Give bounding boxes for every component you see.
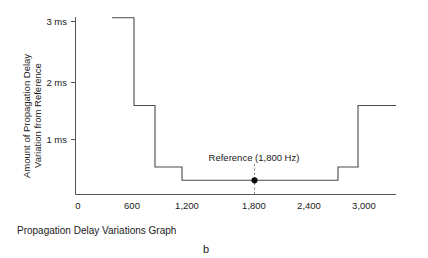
x-tick-label-3000: 3,000 bbox=[352, 200, 376, 211]
y-tick-label-1ms: 1 ms bbox=[46, 134, 67, 145]
y-axis-ticks bbox=[71, 22, 76, 140]
x-axis-tick-labels: 0 600 1,200 1,800 2,400 3,000 bbox=[75, 200, 376, 211]
y-axis-title-line2: Variation from Reference bbox=[32, 63, 43, 168]
chart-page: 3 ms 2 ms 1 ms 0 600 1,200 1,800 2,400 3… bbox=[0, 0, 428, 258]
reference-annotation-label: Reference (1,800 Hz) bbox=[209, 152, 300, 163]
panel-label-b: b bbox=[203, 243, 209, 255]
x-tick-label-0: 0 bbox=[75, 200, 80, 211]
x-tick-label-2400: 2,400 bbox=[297, 200, 321, 211]
y-tick-label-3ms: 3 ms bbox=[46, 16, 67, 27]
chart-caption-group: Propagation Delay Variations Graph b bbox=[17, 225, 209, 255]
reference-point-marker bbox=[251, 177, 257, 183]
y-axis-title-line1: Amount of Propagation Delay bbox=[21, 54, 32, 178]
reference-annotation: Reference (1,800 Hz) bbox=[209, 152, 300, 194]
y-axis-tick-labels: 3 ms 2 ms 1 ms bbox=[46, 16, 67, 145]
x-tick-label-600: 600 bbox=[124, 200, 140, 211]
y-tick-label-2ms: 2 ms bbox=[46, 77, 67, 88]
x-tick-label-1200: 1,200 bbox=[175, 200, 199, 211]
chart-caption: Propagation Delay Variations Graph bbox=[17, 225, 176, 236]
propagation-delay-variations-chart: 3 ms 2 ms 1 ms 0 600 1,200 1,800 2,400 3… bbox=[0, 0, 428, 258]
axes-group bbox=[76, 17, 397, 195]
y-axis-title: Amount of Propagation Delay Variation fr… bbox=[21, 54, 43, 178]
x-tick-label-1800: 1,800 bbox=[242, 200, 266, 211]
